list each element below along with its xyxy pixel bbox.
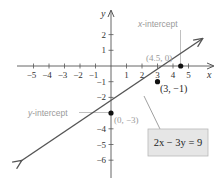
x-tick-label: 5 xyxy=(186,70,191,80)
label-y-intercept-point: (0, −3) xyxy=(114,115,139,125)
y-axis-label: y xyxy=(100,8,106,19)
x-tick-label: 1 xyxy=(124,70,129,80)
y-tick-label: 2 xyxy=(102,30,107,40)
point-y-intercept xyxy=(108,110,113,115)
x-axis-label: x xyxy=(206,69,212,80)
y-tick-label: 1 xyxy=(102,45,107,55)
equation-pointer xyxy=(144,96,160,129)
x-tick-labels: −5 −4 −3 −2 −1 1 2 3 4 5 xyxy=(27,70,192,80)
label-point-3-neg1: (3, −1) xyxy=(160,83,187,95)
x-tick-label: 3 xyxy=(155,70,160,80)
point-x-intercept xyxy=(178,63,183,68)
label-x-intercept-point: (4.5, 0) xyxy=(146,53,172,63)
x-tick-label: −2 xyxy=(73,70,83,80)
y-intercept-callout: y-intercept xyxy=(27,108,68,118)
y-tick-label: −4 xyxy=(96,124,106,134)
y-tick-labels: 2 1 −1 −2 −4 −5 −6 xyxy=(96,30,106,166)
y-tick-label: −2 xyxy=(96,92,106,102)
y-tick-label: −5 xyxy=(96,140,106,150)
coordinate-plane: −5 −4 −3 −2 −1 1 2 3 4 5 2 1 −1 −2 −4 −5… xyxy=(0,0,224,186)
x-tick-label: −3 xyxy=(58,70,68,80)
x-tick-label: 4 xyxy=(171,70,176,80)
equation-label: 2x − 3y = 9 xyxy=(154,137,203,148)
x-tick-label: −5 xyxy=(27,70,37,80)
y-tick-label: −6 xyxy=(96,155,106,165)
y-tick-label: −1 xyxy=(96,77,106,87)
x-tick-label: −4 xyxy=(42,70,52,80)
x-intercept-callout: x-intercept xyxy=(137,19,178,29)
